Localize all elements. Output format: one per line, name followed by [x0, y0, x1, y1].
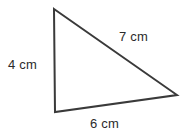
triangle-outline — [54, 9, 177, 112]
side-label-hypotenuse: 7 cm — [119, 30, 148, 43]
side-label-base: 6 cm — [90, 117, 119, 130]
side-label-left: 4 cm — [8, 58, 37, 71]
triangle-diagram: 4 cm 7 cm 6 cm — [0, 0, 186, 138]
